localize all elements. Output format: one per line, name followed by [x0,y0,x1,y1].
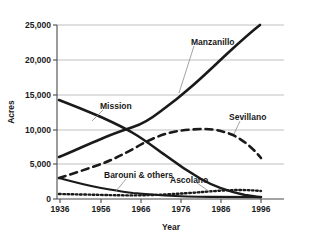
x-tick-label-1996: 1996 [252,204,271,214]
x-tick-label-1976: 1976 [172,204,191,214]
series-label-ascolano: Ascolano [170,175,208,185]
y-axis-title: Acres [6,100,16,124]
chart-svg: 25,000 20,000 15,000 10,000 5,000 0 1936… [0,0,310,237]
series-label-mission: Mission [100,101,132,111]
y-tick-label-10000: 10,000 [25,125,51,135]
x-axis-title: Year [162,222,181,232]
y-tick-label-25000: 25,000 [25,20,51,30]
series-label-barouni-others: Barouni & others [104,170,173,180]
series-label-sevillano: Sevillano [229,112,266,122]
x-tick-label-1966: 1966 [132,204,151,214]
x-tick-label-1956: 1956 [92,204,111,214]
y-tick-label-5000: 5,000 [30,159,52,169]
y-tick-label-15000: 15,000 [25,90,51,100]
x-tick-label-1936: 1936 [51,204,70,214]
y-tick-label-20000: 20,000 [25,55,51,65]
series-label-manzanillo: Manzanillo [191,37,234,47]
y-tick-label-0: 0 [46,194,51,204]
x-tick-label-1986: 1986 [212,204,231,214]
olive-acreage-chart: 25,000 20,000 15,000 10,000 5,000 0 1936… [0,0,310,237]
